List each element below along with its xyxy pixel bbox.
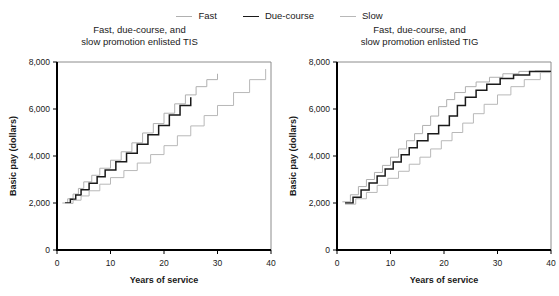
svg-text:6,000: 6,000 xyxy=(29,104,51,114)
svg-text:40: 40 xyxy=(266,258,276,268)
plot-area-tig: 02,0004,0006,0008,000010203040Years of s… xyxy=(280,22,559,296)
chart-panel-tig: Fast, due-course, and slow promotion enl… xyxy=(280,22,559,296)
svg-text:4,000: 4,000 xyxy=(29,151,51,161)
legend-label-fast: Fast xyxy=(198,11,216,21)
legend-entry-slow: Slow xyxy=(340,11,383,21)
svg-text:10: 10 xyxy=(106,258,116,268)
legend-entry-due-course: Due-course xyxy=(243,11,314,21)
legend-entry-fast: Fast xyxy=(176,11,216,21)
legend-label-due-course: Due-course xyxy=(265,11,314,21)
svg-text:0: 0 xyxy=(325,245,330,255)
svg-text:2,000: 2,000 xyxy=(309,198,331,208)
svg-text:8,000: 8,000 xyxy=(29,57,51,67)
legend-swatch-fast xyxy=(176,16,192,17)
svg-text:Basic pay (dollars): Basic pay (dollars) xyxy=(288,116,298,196)
legend-swatch-slow xyxy=(340,16,356,17)
svg-text:0: 0 xyxy=(335,258,340,268)
svg-text:20: 20 xyxy=(439,258,449,268)
svg-text:2,000: 2,000 xyxy=(29,198,51,208)
svg-text:Years of service: Years of service xyxy=(130,275,199,285)
legend-swatch-due-course xyxy=(243,16,259,17)
svg-text:8,000: 8,000 xyxy=(309,57,331,67)
svg-text:Basic pay (dollars): Basic pay (dollars) xyxy=(8,116,18,196)
svg-text:30: 30 xyxy=(213,258,223,268)
svg-text:0: 0 xyxy=(55,258,60,268)
svg-text:0: 0 xyxy=(45,245,50,255)
svg-text:Years of service: Years of service xyxy=(410,275,479,285)
svg-text:40: 40 xyxy=(546,258,556,268)
plot-area-tis: 02,0004,0006,0008,000010203040Years of s… xyxy=(0,22,279,296)
svg-text:10: 10 xyxy=(386,258,396,268)
svg-text:20: 20 xyxy=(159,258,169,268)
legend-label-slow: Slow xyxy=(362,11,383,21)
svg-text:30: 30 xyxy=(493,258,503,268)
svg-text:6,000: 6,000 xyxy=(309,104,331,114)
svg-text:4,000: 4,000 xyxy=(309,151,331,161)
chart-panel-tis: Fast, due-course, and slow promotion enl… xyxy=(0,22,279,296)
